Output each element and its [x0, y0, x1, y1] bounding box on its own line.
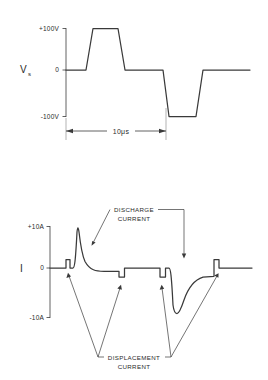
voltage-tick-label-minus100: -100V: [41, 113, 60, 120]
displacement-arrowhead-notch-2: [160, 285, 165, 290]
voltage-tick-label-zero: 0: [55, 66, 59, 73]
voltage-panel: +100V 0 -100V V s 10μs: [20, 25, 250, 141]
dimension-arrowhead-right: [159, 129, 166, 134]
displacement-leader-notch-1: [98, 288, 120, 357]
voltage-tick-label-plus100: +100V: [39, 25, 59, 32]
current-tick-label-zero: 0: [40, 264, 44, 271]
current-tick-label-plus10: +10A: [28, 223, 45, 230]
discharge-current-annotation: DISCHARGE CURRENT: [92, 206, 187, 259]
discharge-arrowhead-positive: [92, 241, 96, 246]
displacement-current-label-line-1: DISPLACEMENT: [108, 354, 160, 361]
dimension-arrowhead-left: [66, 129, 73, 134]
waveform-figure: +100V 0 -100V V s 10μs +10A 0 -10A I: [0, 0, 268, 380]
voltage-signal-label: V: [20, 64, 27, 75]
discharge-leader-positive: [93, 210, 110, 244]
voltage-waveform-trace: [66, 29, 250, 117]
displacement-current-label-line-2: CURRENT: [118, 363, 151, 370]
discharge-current-label-line-2: CURRENT: [118, 215, 151, 222]
discharge-arrowhead-negative: [182, 254, 186, 259]
displacement-leader-notch-2: [162, 288, 171, 357]
displacement-arrowhead-blip-1: [66, 273, 71, 278]
discharge-current-label-line-1: DISCHARGE: [114, 206, 154, 213]
displacement-leader-blip-1: [69, 276, 98, 357]
current-panel: +10A 0 -10A I DISCHARGE CURRENT DISPLACE…: [20, 206, 252, 370]
displacement-leader-blip-2: [171, 276, 217, 357]
current-tick-label-minus10: -10A: [29, 314, 44, 321]
displacement-arrowhead-notch-1: [117, 285, 122, 290]
displacement-current-annotation: DISPLACEMENT CURRENT: [66, 273, 218, 370]
current-waveform-trace: [50, 228, 252, 314]
current-signal-label: I: [20, 263, 23, 274]
dimension-label: 10μs: [113, 128, 130, 136]
voltage-signal-subscript: s: [28, 71, 31, 77]
